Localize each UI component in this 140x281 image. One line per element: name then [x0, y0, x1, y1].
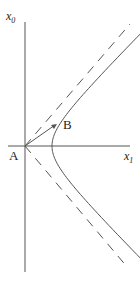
asymptote-lower [25, 146, 128, 268]
spacetime-diagram: x0 x1 A B [0, 0, 140, 281]
arrowhead-icon [51, 124, 57, 129]
point-b-label: B [63, 117, 72, 132]
horizontal-axis-label: x1 [123, 149, 133, 165]
point-a-label: A [9, 148, 19, 163]
asymptote-upper [25, 24, 130, 146]
vertical-axis-label: x0 [5, 9, 15, 25]
